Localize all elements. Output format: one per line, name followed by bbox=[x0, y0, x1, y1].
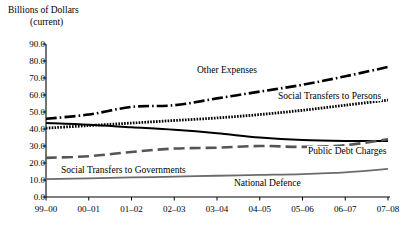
series-label-social-transfers-to-governments: Social Transfers to Governments bbox=[60, 165, 187, 175]
series-label-national-defence: National Defence bbox=[233, 178, 302, 188]
series-line bbox=[46, 123, 388, 141]
series-label-other-expenses: Other Expenses bbox=[196, 65, 258, 75]
series-label-social-transfers-to-persons: Social Transfers to Persons bbox=[277, 91, 382, 101]
series-label-public-debt-charges: Public Debt Charges bbox=[307, 146, 387, 156]
chart-container: Billions of Dollars (current) 0.010.020.… bbox=[0, 0, 405, 232]
plot-area bbox=[0, 0, 405, 232]
